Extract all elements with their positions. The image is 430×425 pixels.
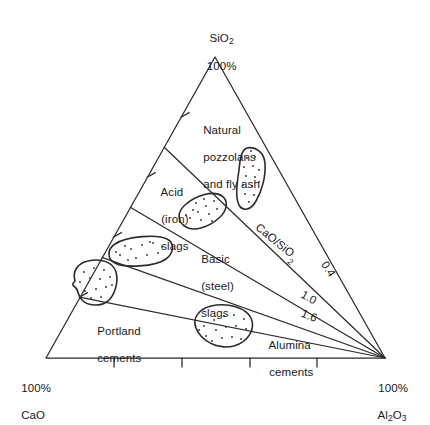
region-label-line: Alumina [269, 339, 311, 351]
region-label-line: slags [201, 307, 228, 319]
region-label-line: cements [269, 366, 313, 378]
region-label-line: and fly ash [203, 178, 260, 190]
vertex-label-sio2-percent: 100% [207, 60, 237, 72]
vertex-label-sio2-species: SiO2 [209, 32, 233, 44]
region-label-line: Basic [201, 253, 230, 265]
region-label-line: (steel) [201, 280, 234, 292]
region-label-basic-steel-slags: Basic (steel) slags [188, 239, 234, 334]
vertex-label-al2o3: 100% Al2O3 [365, 368, 430, 425]
vertex-label-sio2: SiO2 100% [180, 18, 250, 87]
vertex-label-cao-percent: 100% [21, 382, 51, 394]
region-label-line: Portland [97, 325, 141, 337]
region-label-acid-iron-slags: Acid (iron) slags [148, 172, 189, 267]
vertex-label-al2o3-species: Al2O3 [378, 409, 407, 421]
region-label-portland-cements: Portland cements [84, 311, 141, 379]
region-label-line: Acid [161, 186, 184, 198]
region-label-line: cements [97, 352, 141, 364]
region-label-line: slags [161, 240, 188, 252]
region-label-line: (iron) [161, 213, 188, 225]
ratio-line-1-0 [102, 257, 385, 358]
region-label-natural-pozzolans: Natural pozzolans and fly ash [190, 110, 260, 205]
region-label-alumina-cements: Alumina cements [256, 325, 313, 393]
vertex-label-cao-species: CaO [21, 409, 45, 421]
vertex-label-cao: 100% CaO [8, 368, 88, 425]
region-label-line: Natural [203, 124, 241, 136]
vertex-label-al2o3-percent: 100% [378, 382, 408, 394]
region-label-line: pozzolans [203, 151, 256, 163]
